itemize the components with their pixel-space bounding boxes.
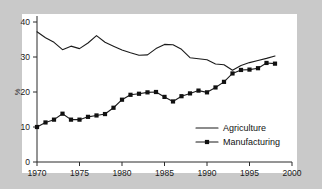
- series-marker-manufacturing: [162, 95, 166, 99]
- series-marker-manufacturing: [94, 113, 98, 117]
- data-series: [35, 32, 277, 129]
- x-tick-label: 1980: [113, 168, 132, 178]
- series-marker-manufacturing: [179, 94, 183, 98]
- series-marker-manufacturing: [86, 115, 90, 119]
- series-marker-manufacturing: [35, 125, 39, 129]
- series-marker-manufacturing: [111, 106, 115, 110]
- series-marker-manufacturing: [103, 112, 107, 116]
- series-marker-manufacturing: [137, 92, 141, 96]
- series-marker-manufacturing: [77, 118, 81, 122]
- series-marker-manufacturing: [52, 118, 56, 122]
- series-marker-manufacturing: [69, 118, 73, 122]
- legend-label-manufacturing[interactable]: Manufacturing: [223, 137, 280, 147]
- series-marker-manufacturing: [154, 90, 158, 94]
- y-axis-label: %: [13, 88, 22, 95]
- series-line-agriculture: [37, 32, 275, 71]
- series-marker-manufacturing: [196, 89, 200, 93]
- series-marker-manufacturing: [256, 66, 260, 70]
- x-tick-label: 1985: [155, 168, 174, 178]
- x-tick-label: 1995: [240, 168, 259, 178]
- y-tick-label: 30: [21, 52, 31, 62]
- chart-legend[interactable]: AgricultureManufacturing: [196, 123, 280, 147]
- legend-swatch-marker: [205, 140, 209, 144]
- series-marker-manufacturing: [60, 112, 64, 116]
- series-marker-manufacturing: [230, 71, 234, 75]
- y-tick-label: 10: [21, 122, 31, 132]
- series-marker-manufacturing: [43, 120, 47, 124]
- series-marker-manufacturing: [128, 93, 132, 97]
- tick-labels: 0102030401970197519801985199019952000%: [13, 17, 302, 178]
- series-marker-manufacturing: [247, 68, 251, 72]
- series-marker-manufacturing: [188, 91, 192, 95]
- series-line-manufacturing: [37, 63, 275, 127]
- chart-figure: 0102030401970197519801985199019952000% A…: [0, 0, 322, 189]
- x-tick-label: 2000: [283, 168, 302, 178]
- series-marker-manufacturing: [239, 68, 243, 72]
- series-marker-manufacturing: [205, 90, 209, 94]
- series-marker-manufacturing: [264, 61, 268, 65]
- chart-canvas: 0102030401970197519801985199019952000% A…: [0, 0, 322, 189]
- series-marker-manufacturing: [145, 90, 149, 94]
- x-tick-label: 1975: [70, 168, 89, 178]
- series-marker-manufacturing: [120, 98, 124, 102]
- series-marker-manufacturing: [171, 99, 175, 103]
- legend-label-agriculture[interactable]: Agriculture: [223, 123, 266, 133]
- y-tick-label: 0: [25, 157, 30, 167]
- x-tick-label: 1970: [28, 168, 47, 178]
- series-marker-manufacturing: [273, 62, 277, 66]
- x-tick-label: 1990: [198, 168, 217, 178]
- y-tick-label: 40: [21, 17, 31, 27]
- series-marker-manufacturing: [213, 85, 217, 89]
- series-marker-manufacturing: [222, 80, 226, 84]
